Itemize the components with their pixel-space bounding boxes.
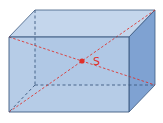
center-label: S xyxy=(93,55,100,68)
cuboid-diagram: S xyxy=(0,0,163,123)
center-point xyxy=(79,58,84,63)
front-face xyxy=(9,37,129,112)
